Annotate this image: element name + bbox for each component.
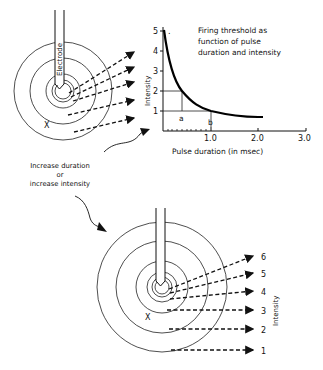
y-tick-5: 5 [153, 27, 158, 36]
chart-title-line1: Firing threshold as [198, 26, 267, 35]
y-tick-2: 2 [153, 87, 158, 96]
electrode-label: Electrode [56, 43, 64, 76]
level-2: 2 [261, 326, 266, 335]
top-electrode-diagram: Electrode X [14, 10, 134, 140]
y-tick-3: 3 [153, 67, 158, 76]
arrow-icon [169, 256, 253, 289]
chart-title-line3: duration and intensity [198, 48, 282, 57]
intensity-label: Intensity [272, 296, 280, 326]
site-marker-x: X [44, 121, 50, 130]
electrode-icon [156, 208, 165, 286]
site-marker-x: X [145, 313, 151, 322]
guide-b [163, 111, 211, 127]
caption-arrowhead-icon [97, 222, 107, 232]
arrow-icon [170, 291, 253, 299]
middle-caption: Increase duration or increase intensity [30, 162, 107, 232]
caption-line3: increase intensity [30, 180, 90, 188]
guide-a [163, 91, 182, 111]
level-1: 1 [261, 347, 266, 356]
point-b-label: b [208, 118, 213, 127]
connector-line [104, 131, 144, 152]
caption-line1: Increase duration [30, 162, 90, 170]
bottom-electrode-diagram: X 6 5 4 3 2 1 Intensity [97, 208, 280, 356]
level-3: 3 [261, 307, 266, 316]
point-a-label: a [179, 114, 184, 123]
level-5: 5 [261, 270, 266, 279]
y-tick-1: 1 [153, 107, 158, 116]
caption-pointer-line [75, 196, 100, 227]
caption-line2: or [57, 171, 64, 179]
diagram-canvas: Electrode X 5 4 3 2 1 Intensity [0, 0, 323, 370]
connector-arrowhead-icon [140, 128, 150, 136]
bottom-arrows [167, 256, 253, 350]
threshold-chart: 5 4 3 2 1 Intensity 1.0 2.0 3.0 Pulse du… [144, 26, 311, 156]
x-axis-label: Pulse duration (in msec) [172, 147, 263, 156]
arrow-icon [69, 52, 134, 93]
level-4: 4 [261, 288, 266, 297]
chart-title-line2: function of pulse [198, 37, 261, 46]
level-6: 6 [261, 253, 266, 262]
x-tick-2: 2.0 [251, 134, 264, 143]
y-tick-4: 4 [153, 47, 158, 56]
arrow-icon [170, 273, 253, 293]
arrow-icon [68, 100, 134, 115]
x-tick-1: 1.0 [204, 134, 217, 143]
x-tick-3: 3.0 [298, 134, 311, 143]
arrow-icon [74, 118, 134, 132]
curve-dot: . [168, 27, 171, 36]
y-axis-label: Intensity [144, 76, 152, 106]
